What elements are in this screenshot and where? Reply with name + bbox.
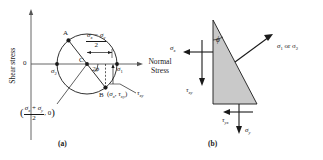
tau-yx-arrowhead <box>223 109 230 115</box>
radius-dimension-arrow-left <box>87 51 91 54</box>
tau-yx-subscript: yx <box>225 120 229 125</box>
center-paren-close: ) <box>51 106 55 118</box>
point-b-label: B <box>99 92 104 99</box>
center-num-sigma-y-sub: y <box>41 108 43 113</box>
tau-xy-element-label: τxy <box>186 87 193 95</box>
sigma-y-subscript: y <box>248 130 250 135</box>
sigma2-subscript: 2 <box>54 71 56 76</box>
panel-b-graphic <box>165 0 323 160</box>
tau-xy-label: τxy <box>137 90 144 98</box>
principal-stress-label: σ1 or σ2 <box>277 43 298 51</box>
panel-a-mohrs-circle: Shear stress 0 Normal Stress A B C σ2 σ1… <box>0 0 165 160</box>
b-coord-paren-close: ) <box>125 90 127 98</box>
radius-num-minus: − <box>93 31 100 39</box>
panel-a-caption: (a) <box>58 140 67 148</box>
radius-num-sigma-y-sub: y <box>103 35 105 40</box>
sigma-y-label: σy <box>245 127 251 135</box>
center-num-plus: + <box>30 104 37 112</box>
sigma-x-arrowhead <box>183 49 190 55</box>
sigma-x-label: σx <box>170 45 176 53</box>
panel-a-graphic <box>0 0 165 160</box>
principal-stress-arrow-line <box>235 37 269 62</box>
center-coordinates-label: ( σx + σy 2 , 0) <box>20 105 55 122</box>
shear-axis-arrowhead <box>29 9 33 15</box>
radius-expression-label: σx − σy 2 <box>86 32 106 49</box>
point-a-label: A <box>63 30 68 37</box>
sigma2-label: σ2 <box>51 68 57 76</box>
origin-label: 0 <box>23 60 27 67</box>
center-numerator: σx + σy <box>24 105 44 114</box>
sigma2-point-marker <box>55 62 59 66</box>
tau-xy-subscript: xy <box>140 93 144 98</box>
principal-sub-2: 2 <box>296 46 298 51</box>
radius-fraction: σx − σy 2 <box>86 32 106 49</box>
shear-stress-axis-label: Shear stress <box>9 29 17 103</box>
principal-or-text: or σ <box>283 42 296 50</box>
tau-xy-arrowhead <box>199 78 205 86</box>
center-point-marker <box>85 62 89 66</box>
sigma1-label: σ1 <box>117 66 123 74</box>
sigma-y-arrowhead <box>236 126 242 134</box>
panel-b-caption: (b) <box>208 140 217 148</box>
center-fraction: σx + σy 2 <box>24 105 44 122</box>
point-a-marker <box>66 38 70 42</box>
center-leader-line <box>57 64 87 104</box>
center-denominator: 2 <box>24 114 44 123</box>
tau-xy-measure-arrowhead <box>111 64 114 68</box>
mohrs-circle-figure: Shear stress 0 Normal Stress A B C σ2 σ1… <box>0 0 323 160</box>
radius-denominator: 2 <box>86 41 106 50</box>
panel-b-stress-element: ϕ σ1 or σ2 σx τxy τyx σy (b) <box>165 0 323 160</box>
radius-numerator: σx − σy <box>86 32 106 41</box>
sigma1-subscript: 1 <box>120 69 122 74</box>
angle-phi-label: ϕ <box>216 36 220 44</box>
tau-yx-label: τyx <box>222 117 229 125</box>
angle-2phi-label: 2ϕ <box>92 66 99 73</box>
tau-xy-element-subscript: xy <box>189 90 193 95</box>
point-c-label: C <box>79 57 84 64</box>
sigma-x-subscript: x <box>173 48 175 53</box>
point-b-coordinates-label: (σx, τxy) <box>107 91 127 99</box>
radius-dimension-arrow-right <box>108 51 112 54</box>
